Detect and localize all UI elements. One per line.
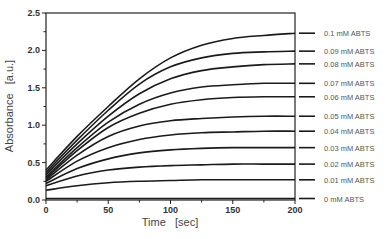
y-tick-label: 1.5	[27, 83, 40, 93]
y-tick-label: 2.5	[27, 8, 40, 18]
legend-label: 0.06 mM ABTS	[324, 93, 374, 102]
legend-label: 0.04 mM ABTS	[324, 127, 374, 136]
y-tick-label: 2.0	[27, 45, 40, 55]
legend-label: 0.07 mM ABTS	[324, 79, 374, 88]
series-line	[46, 164, 295, 186]
y-tick-label: 0.5	[27, 158, 40, 168]
x-tick-label: 100	[163, 205, 178, 215]
legend-label: 0.1 mM ABTS	[324, 29, 370, 38]
y-axis-ticks: 0.00.51.01.52.02.5	[27, 8, 46, 205]
y-tick-label: 1.0	[27, 120, 40, 130]
legend-label: 0.08 mM ABTS	[324, 60, 374, 69]
plot-frame	[46, 13, 295, 200]
y-tick-label: 0.0	[27, 195, 40, 205]
x-tick-label: 50	[103, 205, 113, 215]
series-lines	[46, 33, 295, 198]
x-axis-ticks: 050100150200	[43, 200, 302, 215]
x-axis-title: Time [sec]	[142, 216, 198, 228]
legend: 0.1 mM ABTS0.09 mM ABTS0.08 mM ABTS0.07 …	[299, 29, 374, 203]
legend-label: 0.09 mM ABTS	[324, 47, 374, 56]
legend-label: 0.05 mM ABTS	[324, 112, 374, 121]
legend-label: 0.01 mM ABTS	[324, 176, 374, 185]
y-axis-title: Absorbance [a.u.]	[3, 60, 15, 152]
absorbance-chart: 050100150200 0.00.51.01.52.02.5 0.1 mM A…	[0, 0, 388, 239]
series-line	[46, 180, 295, 191]
plot-area-border	[46, 13, 295, 200]
legend-label: 0.03 mM ABTS	[324, 144, 374, 153]
series-line	[46, 51, 295, 172]
legend-label: 0.02 mM ABTS	[324, 160, 374, 169]
x-tick-label: 150	[225, 205, 240, 215]
legend-label: 0 mM ABTS	[324, 195, 364, 204]
x-tick-label: 200	[287, 205, 302, 215]
x-tick-label: 0	[43, 205, 48, 215]
